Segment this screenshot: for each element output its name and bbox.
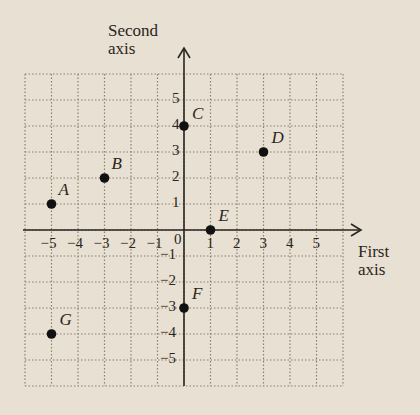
point-label-b: B — [112, 154, 122, 174]
y-axis-label: Second axis — [108, 22, 158, 58]
point-label-f: F — [192, 284, 202, 304]
data-point-g — [47, 329, 57, 339]
coordinate-plane — [0, 0, 420, 415]
x-tick-label: −3 — [94, 235, 110, 252]
data-point-b — [100, 173, 110, 183]
point-label-e: E — [219, 206, 229, 226]
x-axis-label-line-1: First — [358, 243, 389, 261]
y-tick-label: 1 — [172, 194, 180, 211]
data-point-d — [259, 147, 269, 157]
y-axis-label-line-2: axis — [108, 40, 158, 58]
data-point-e — [206, 225, 216, 235]
data-point-c — [179, 121, 189, 131]
x-tick-label: 3 — [260, 235, 268, 252]
point-label-g: G — [60, 310, 72, 330]
y-axis-label-line-1: Second — [108, 22, 158, 40]
data-point-a — [47, 199, 57, 209]
y-tick-label: −5 — [160, 350, 176, 367]
y-tick-label: −3 — [160, 298, 176, 315]
x-tick-label: 4 — [286, 235, 294, 252]
point-label-a: A — [59, 180, 69, 200]
point-label-c: C — [192, 104, 203, 124]
x-tick-label: −2 — [120, 235, 136, 252]
x-tick-label: 5 — [313, 235, 321, 252]
x-axis-label-line-2: axis — [358, 261, 389, 279]
axes — [23, 48, 361, 386]
y-tick-label: 2 — [172, 168, 180, 185]
x-tick-label: −5 — [41, 235, 57, 252]
origin-label: 0 — [174, 231, 182, 248]
x-tick-label: 2 — [233, 235, 241, 252]
y-tick-label: −1 — [160, 246, 176, 263]
x-tick-label: −4 — [67, 235, 83, 252]
data-point-f — [179, 303, 189, 313]
y-tick-label: −2 — [160, 272, 176, 289]
x-tick-label: 1 — [207, 235, 215, 252]
y-tick-label: −4 — [160, 324, 176, 341]
x-axis-label: First axis — [358, 243, 389, 279]
y-tick-label: 3 — [172, 142, 180, 159]
point-label-d: D — [272, 128, 284, 148]
y-tick-label: 4 — [172, 116, 180, 133]
y-tick-label: 5 — [172, 90, 180, 107]
